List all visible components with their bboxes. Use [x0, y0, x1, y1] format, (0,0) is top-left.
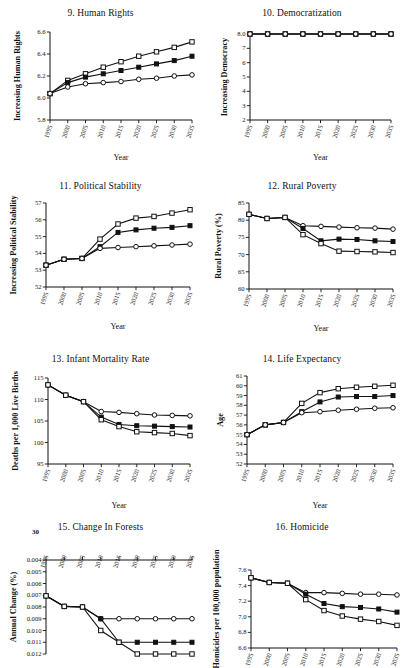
chart-svg: 0.0040.0050.0060.0070.0080.0090.0100.011…	[0, 532, 201, 668]
data-point-marker	[116, 222, 120, 226]
y-tick-label: 54	[236, 440, 243, 447]
data-point-marker	[190, 616, 195, 621]
data-point-marker	[66, 81, 70, 85]
x-tick-label: 2005	[76, 467, 87, 482]
data-point-marker	[65, 85, 70, 90]
y-tick-label: 100	[34, 439, 45, 446]
data-point-marker	[336, 408, 341, 413]
data-point-marker	[301, 226, 305, 230]
y-tick-label: 0.008	[27, 603, 43, 610]
data-point-marker	[137, 65, 141, 69]
data-point-marker	[283, 215, 287, 219]
y-tick-label: 6.6	[238, 644, 247, 651]
series-line	[46, 596, 192, 654]
x-tick-label: 2005	[75, 290, 86, 305]
y-tick-label: 0.006	[27, 580, 43, 587]
data-point-marker	[373, 239, 377, 243]
chart-svg: 5253545556571995200020052010201520202025…	[0, 193, 201, 345]
data-point-marker	[391, 250, 395, 254]
data-point-marker	[137, 54, 141, 58]
x-tick-label: 1995	[244, 651, 255, 666]
x-tick-label: 2015	[314, 292, 325, 307]
x-tick-label: 2030	[371, 651, 382, 666]
x-axis-title: Year	[111, 501, 126, 510]
x-tick-label: 2035	[386, 292, 397, 307]
plot-area: 5253545556571995200020052010201520202025…	[0, 193, 201, 345]
y-axis-title: Deaths per 1,000 Live Births	[11, 371, 20, 471]
chart-panel-political-stability: 11. Political Stability 5253545556571995…	[0, 175, 201, 347]
plot-area: 5.86.06.26.46.61995200020052010201520202…	[0, 20, 201, 170]
data-point-marker	[391, 227, 396, 232]
data-point-marker	[83, 81, 88, 86]
y-axis-title: Age	[216, 413, 225, 427]
data-point-marker	[119, 60, 123, 64]
x-tick-label: 2000	[60, 123, 71, 138]
y-tick-label: 5.8	[37, 116, 46, 123]
data-point-marker	[322, 602, 326, 606]
chart-title: 16. Homicide	[201, 522, 403, 532]
x-tick-label: 2000	[57, 553, 68, 568]
x-tick-label: 2020	[129, 290, 140, 305]
y-tick-label: 58	[236, 401, 243, 408]
y-tick-label: 59	[236, 392, 243, 399]
chart-title: 13. Infant Mortality Rate	[0, 354, 201, 364]
data-point-marker	[355, 237, 359, 241]
y-axis-title: Increasing Democracy	[220, 37, 229, 116]
chart-svg: 9510010511011519952000200520102015202020…	[0, 366, 201, 522]
data-point-marker	[267, 580, 271, 584]
data-point-marker	[134, 228, 138, 232]
data-point-marker	[337, 249, 341, 253]
data-point-marker	[245, 432, 250, 437]
y-tick-label: 115	[34, 374, 44, 381]
plot-area: 0.0040.0050.0060.0070.0080.0090.0100.011…	[0, 532, 201, 668]
x-axis-title: Year	[313, 153, 328, 162]
data-point-marker	[190, 73, 195, 78]
x-tick-label: 2025	[350, 292, 361, 307]
x-tick-label: 2010	[93, 290, 104, 305]
data-point-marker	[116, 230, 120, 234]
x-tick-label: 2035	[386, 467, 397, 482]
data-point-marker	[152, 430, 156, 434]
y-tick-label: 57	[236, 411, 243, 418]
data-point-marker	[281, 420, 286, 425]
x-tick-label: 2035	[185, 123, 196, 138]
data-point-marker	[391, 240, 395, 244]
data-point-marker	[190, 40, 194, 44]
x-tick-label: 2010	[298, 651, 309, 666]
data-point-marker	[170, 225, 174, 229]
data-point-marker	[171, 616, 176, 621]
y-tick-label: 80	[238, 216, 245, 223]
data-point-marker	[98, 237, 102, 241]
x-tick-label: 2005	[75, 553, 86, 568]
x-tick-label: 2010	[294, 467, 305, 482]
chart-panel-change-in-forests: 15. Change In Forests 30 0.0040.0050.006…	[0, 524, 201, 668]
x-tick-label: 1995	[242, 292, 253, 307]
chart-svg: 5.86.06.26.46.61995200020052010201520202…	[0, 20, 201, 170]
data-point-marker	[170, 431, 174, 435]
data-point-marker	[99, 418, 103, 422]
data-point-marker	[300, 401, 304, 405]
y-tick-label: 54	[35, 249, 42, 256]
data-point-marker	[99, 628, 103, 632]
y-tick-label: 6	[242, 59, 246, 66]
y-tick-label: 7.4	[238, 582, 247, 589]
data-point-marker	[152, 413, 157, 418]
y-tick-label: 0.009	[27, 615, 43, 622]
data-point-marker	[101, 72, 105, 76]
data-point-marker	[373, 226, 378, 231]
y-tick-label: 53	[35, 266, 42, 273]
y-tick-label: 0.007	[27, 591, 43, 598]
data-point-marker	[265, 32, 270, 37]
data-point-marker	[359, 605, 363, 609]
chart-title: 12. Rural Poverty	[201, 181, 403, 191]
data-point-marker	[172, 45, 176, 49]
data-point-marker	[188, 425, 192, 429]
data-point-marker	[117, 640, 121, 644]
y-axis-title: Annual Change (%)	[9, 571, 18, 642]
data-point-marker	[376, 592, 381, 597]
data-point-marker	[152, 244, 157, 249]
data-point-marker	[265, 216, 269, 220]
y-tick-label: 6.8	[238, 628, 247, 635]
data-point-marker	[304, 592, 308, 596]
chart-panel-life-expectancy: 14. Life Expectancy 52535455565758596061…	[201, 352, 403, 524]
